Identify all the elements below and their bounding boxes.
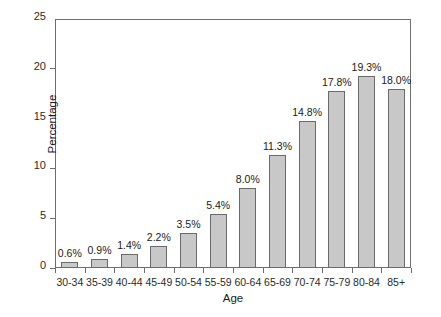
bar-value-label: 5.4%: [193, 200, 243, 211]
x-tick-mark: [292, 268, 293, 273]
bar-value-label: 8.0%: [223, 174, 273, 185]
bar-chart: Percentage 0510152025 0.6%0.9%1.4%2.2%3.…: [0, 0, 441, 317]
x-tick-mark: [322, 268, 323, 273]
bar: [388, 89, 405, 268]
bar: [299, 121, 316, 268]
x-tick-mark: [352, 268, 353, 273]
bar: [210, 214, 227, 268]
bar: [121, 254, 138, 268]
bar: [61, 262, 78, 268]
x-axis-title: Age: [55, 292, 411, 304]
y-tick-mark: [50, 19, 55, 20]
x-tick-mark: [233, 268, 234, 273]
bar-value-label: 2.2%: [134, 232, 184, 243]
x-tick-mark: [263, 268, 264, 273]
bar: [150, 246, 167, 268]
x-tick-mark: [114, 268, 115, 273]
x-tick-label: 85+: [371, 276, 421, 288]
bar: [239, 188, 256, 268]
bar: [269, 155, 286, 268]
bar: [180, 233, 197, 268]
bar-value-label: 17.8%: [312, 77, 362, 88]
x-tick-mark: [381, 268, 382, 273]
y-axis-title: Percentage: [46, 64, 58, 184]
bar-value-label: 3.5%: [164, 219, 214, 230]
y-tick-label: 15: [34, 111, 46, 122]
y-tick-mark: [50, 118, 55, 119]
bar: [91, 259, 108, 268]
x-tick-mark: [174, 268, 175, 273]
x-tick-mark: [203, 268, 204, 273]
bar-value-label: 19.3%: [342, 62, 392, 73]
y-tick-label: 5: [40, 210, 46, 221]
x-tick-mark: [144, 268, 145, 273]
x-tick-mark: [411, 268, 412, 273]
bar-value-label: 18.0%: [371, 75, 421, 86]
y-tick-mark: [50, 68, 55, 69]
y-tick-mark: [50, 218, 55, 219]
y-tick-mark: [50, 168, 55, 169]
bar-value-label: 11.3%: [253, 141, 303, 152]
y-tick-label: 10: [34, 160, 46, 171]
x-tick-mark: [85, 268, 86, 273]
y-tick-label: 0: [40, 260, 46, 271]
x-tick-mark: [55, 268, 56, 273]
bar: [358, 76, 375, 268]
y-tick-label: 20: [34, 61, 46, 72]
bar-value-label: 14.8%: [282, 107, 332, 118]
bar: [328, 91, 345, 268]
y-tick-label: 25: [34, 11, 46, 22]
